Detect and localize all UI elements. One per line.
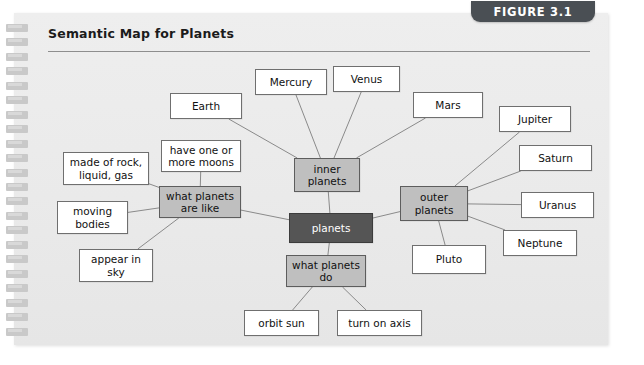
node-orbit_sun: orbit sun [244, 310, 319, 336]
node-outer: outerplanets [400, 186, 468, 221]
node-label: made of rock,liquid, gas [70, 156, 142, 181]
edge-like-appear [138, 218, 179, 249]
edge-outer-saturn [468, 171, 521, 191]
node-planets: planets [289, 213, 373, 243]
node-label: Venus [351, 73, 383, 86]
node-mercury: Mercury [255, 69, 327, 95]
node-appear: appear insky [79, 249, 153, 282]
node-neptune: Neptune [503, 230, 577, 256]
edge-do-orbit_sun [293, 287, 313, 310]
node-uranus: Uranus [521, 192, 594, 218]
edge-outer-uranus [468, 204, 521, 205]
node-turn_on_axis: turn on axis [337, 310, 422, 336]
node-label: Pluto [436, 253, 462, 266]
node-label: innerplanets [308, 163, 347, 188]
node-label: turn on axis [348, 317, 410, 330]
node-earth: Earth [170, 93, 242, 119]
node-label: Saturn [538, 152, 573, 165]
node-label: have one ormore moons [168, 144, 234, 169]
node-jupiter: Jupiter [499, 106, 571, 132]
node-do: what planetsdo [286, 255, 366, 287]
node-label: planets [312, 222, 351, 235]
node-label: Earth [192, 100, 220, 113]
node-label: Neptune [518, 237, 563, 250]
node-mars: Mars [413, 92, 483, 118]
node-label: what planetsare like [166, 190, 234, 215]
edge-do-turn_on_axis [343, 287, 367, 310]
figure-screenshot: FIGURE 3.1 Semantic Map for Planets plan… [0, 0, 644, 365]
edge-planets-inner [328, 192, 330, 213]
node-moons: have one ormore moons [161, 140, 241, 172]
node-label: Uranus [539, 199, 576, 212]
edge-like-moving [128, 208, 159, 213]
edge-outer-neptune [468, 216, 505, 230]
node-venus: Venus [333, 66, 400, 92]
edge-inner-mars [356, 118, 425, 158]
node-made_of: made of rock,liquid, gas [63, 152, 149, 185]
node-like: what planetsare like [159, 186, 241, 218]
semantic-map-diagram: planetsinnerplanetsouterplanetswhat plan… [0, 0, 644, 365]
node-label: outerplanets [415, 191, 454, 216]
node-moving: movingbodies [57, 201, 128, 234]
node-label: movingbodies [73, 205, 112, 230]
node-inner: innerplanets [294, 158, 360, 192]
edge-outer-jupiter [455, 132, 520, 186]
edge-like-made_of [149, 184, 159, 188]
edge-planets-outer [373, 212, 400, 218]
edge-planets-like [241, 210, 289, 220]
node-label: Jupiter [518, 113, 552, 126]
edge-planets-do [328, 243, 329, 255]
node-label: what planetsdo [292, 259, 360, 284]
node-label: Mercury [270, 76, 313, 89]
edge-outer-pluto [439, 221, 445, 245]
node-label: appear insky [91, 253, 141, 278]
edge-inner-venus [334, 92, 361, 158]
node-pluto: Pluto [412, 245, 486, 274]
node-label: Mars [435, 99, 460, 112]
edge-inner-mercury [296, 95, 320, 158]
node-saturn: Saturn [519, 145, 592, 171]
node-label: orbit sun [258, 317, 305, 330]
